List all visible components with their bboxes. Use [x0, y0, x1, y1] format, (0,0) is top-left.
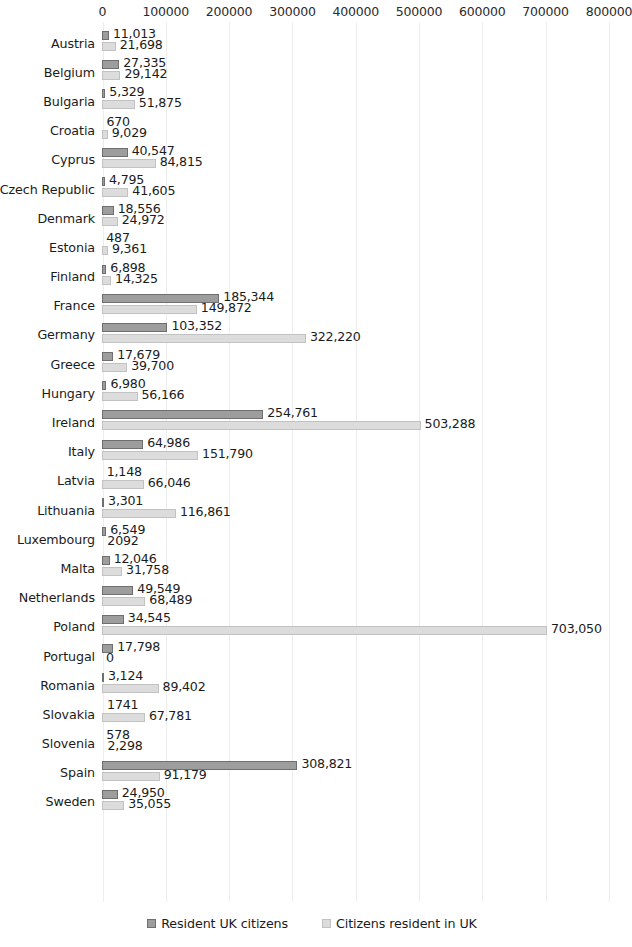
category-label: Malta — [61, 560, 96, 575]
bar-value-label: 89,402 — [163, 679, 206, 694]
bar-citizens-resident-in-uk — [102, 130, 108, 139]
bar-group: 308,82191,179 — [102, 758, 624, 787]
bar-value-label: 68,489 — [149, 592, 192, 607]
bar-resident-uk-citizens — [102, 60, 119, 69]
bar-resident-uk-citizens — [102, 440, 143, 449]
bar-resident-uk-citizens — [102, 790, 118, 799]
legend-item[interactable]: Resident UK citizens — [147, 916, 288, 931]
legend-item[interactable]: Citizens resident in UK — [322, 916, 477, 931]
bar-resident-uk-citizens — [102, 31, 109, 40]
chart-row: Greece17,67939,700 — [0, 349, 624, 378]
bar-resident-uk-citizens — [102, 148, 128, 157]
chart-row: Slovenia5782,298 — [0, 729, 624, 758]
bar-citizens-resident-in-uk — [102, 246, 108, 255]
bar-group: 1,14866,046 — [102, 466, 624, 495]
bar-group: 6,89814,325 — [102, 262, 624, 291]
bar-value-label: 2,298 — [107, 738, 142, 753]
bar-citizens-resident-in-uk — [102, 451, 198, 460]
bar-group: 174167,781 — [102, 699, 624, 728]
legend-swatch-icon — [147, 919, 156, 928]
x-axis-tick-label: 500000 — [396, 4, 443, 19]
bar-group: 11,01321,698 — [102, 28, 624, 57]
bar-value-label: 29,142 — [124, 66, 167, 81]
category-label: Luxembourg — [17, 531, 95, 546]
x-axis-tick-label: 0 — [99, 4, 107, 19]
bar-value-label: 35,055 — [128, 796, 171, 811]
chart-row: Romania3,12489,402 — [0, 670, 624, 699]
x-axis-tick-label: 800000 — [586, 4, 632, 19]
bar-value-label: 322,220 — [310, 329, 361, 344]
category-label: Italy — [68, 444, 95, 459]
bar-group: 18,55624,972 — [102, 203, 624, 232]
bar-value-label: 151,790 — [202, 446, 253, 461]
category-label: Spain — [60, 765, 95, 780]
bar-group: 17,7980 — [102, 641, 624, 670]
chart-row: Malta12,04631,758 — [0, 553, 624, 582]
category-label: Portugal — [43, 648, 95, 663]
category-label: Slovenia — [42, 736, 95, 751]
category-label: Bulgaria — [43, 93, 95, 108]
legend-label: Citizens resident in UK — [336, 916, 477, 931]
x-axis-tick-label: 200000 — [206, 4, 253, 19]
bar-group: 12,04631,758 — [102, 553, 624, 582]
bar-citizens-resident-in-uk — [102, 480, 144, 489]
category-label: Germany — [37, 327, 95, 342]
x-axis-tick-label: 300000 — [269, 4, 316, 19]
bar-resident-uk-citizens — [102, 265, 106, 274]
bar-value-label: 14,325 — [115, 271, 158, 286]
bar-resident-uk-citizens — [102, 89, 105, 98]
category-label: Ireland — [52, 415, 95, 430]
bar-group: 6709,029 — [102, 116, 624, 145]
category-label: Croatia — [50, 123, 95, 138]
bar-citizens-resident-in-uk — [102, 597, 145, 606]
bar-group: 27,33529,142 — [102, 57, 624, 86]
bar-resident-uk-citizens — [102, 586, 133, 595]
bar-citizens-resident-in-uk — [102, 217, 118, 226]
x-axis: 0100000200000300000400000500000600000700… — [0, 0, 624, 28]
bar-value-label: 41,605 — [132, 183, 175, 198]
bar-value-label: 34,545 — [128, 610, 171, 625]
bar-group: 185,344149,872 — [102, 291, 624, 320]
bar-value-label: 21,698 — [120, 37, 163, 52]
bar-resident-uk-citizens — [102, 410, 263, 419]
chart-row: Italy64,986151,790 — [0, 437, 624, 466]
chart-row: Bulgaria5,32951,875 — [0, 86, 624, 115]
chart-row: Cyprus40,54784,815 — [0, 145, 624, 174]
bar-citizens-resident-in-uk — [102, 305, 197, 314]
chart-row: Netherlands49,54968,489 — [0, 583, 624, 612]
chart-row: Poland34,545703,050 — [0, 612, 624, 641]
chart-row: Finland6,89814,325 — [0, 262, 624, 291]
bar-citizens-resident-in-uk — [102, 159, 156, 168]
chart-row: Lithuania3,301116,861 — [0, 495, 624, 524]
bar-resident-uk-citizens — [102, 556, 110, 565]
x-axis-tick-label: 700000 — [522, 4, 569, 19]
bar-group: 64,986151,790 — [102, 437, 624, 466]
bar-group: 40,54784,815 — [102, 145, 624, 174]
bar-group: 17,67939,700 — [102, 349, 624, 378]
bar-value-label: 39,700 — [131, 358, 174, 373]
bar-citizens-resident-in-uk — [102, 684, 159, 693]
chart-row: Slovakia174167,781 — [0, 699, 624, 728]
category-label: Estonia — [49, 239, 95, 254]
bar-group: 6,5492092 — [102, 524, 624, 553]
bar-resident-uk-citizens — [102, 352, 113, 361]
bar-value-label: 503,288 — [425, 416, 476, 431]
bar-group: 254,761503,288 — [102, 407, 624, 436]
bar-group: 5782,298 — [102, 729, 624, 758]
bar-value-label: 9,361 — [112, 241, 147, 256]
bar-value-label: 103,352 — [171, 318, 222, 333]
x-axis-tick-label: 600000 — [459, 4, 506, 19]
bar-resident-uk-citizens — [102, 323, 167, 332]
bar-citizens-resident-in-uk — [102, 801, 124, 810]
category-label: Finland — [50, 269, 95, 284]
category-label: Netherlands — [19, 590, 95, 605]
x-axis-tick-label: 100000 — [143, 4, 190, 19]
chart-row: Denmark18,55624,972 — [0, 203, 624, 232]
bar-value-label: 91,179 — [164, 767, 207, 782]
category-label: Romania — [40, 677, 95, 692]
bar-group: 34,545703,050 — [102, 612, 624, 641]
chart-row: Croatia6709,029 — [0, 116, 624, 145]
bar-resident-uk-citizens — [102, 615, 124, 624]
category-label: Cyprus — [51, 152, 95, 167]
bar-value-label: 66,046 — [148, 475, 191, 490]
